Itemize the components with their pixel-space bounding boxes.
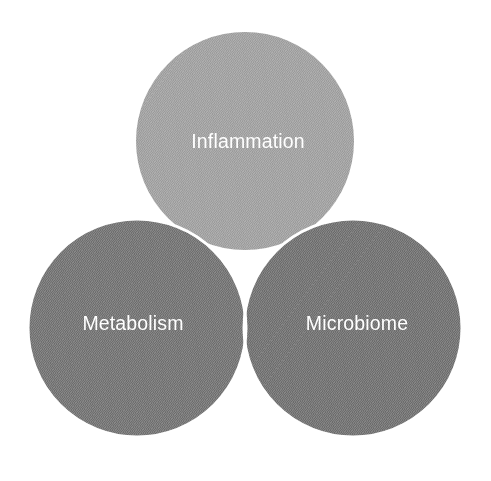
venn-label-microbiome: Microbiome: [306, 312, 408, 334]
venn-diagram-figure: Inflammation Metabolism Microbiome: [0, 0, 491, 481]
venn-diagram-canvas: Inflammation Metabolism Microbiome: [0, 0, 491, 481]
venn-label-inflammation: Inflammation: [191, 130, 304, 152]
venn-set-circles: [28, 32, 462, 437]
venn-label-metabolism: Metabolism: [82, 312, 183, 334]
